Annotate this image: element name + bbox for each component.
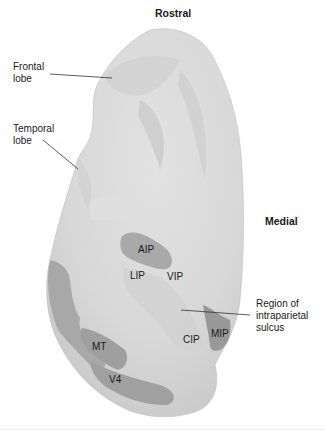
area-cip-label: CIP xyxy=(183,334,200,345)
area-lip-label: LIP xyxy=(130,270,145,281)
area-aip-label: AIP xyxy=(138,244,154,255)
area-mt-label: MT xyxy=(92,341,106,352)
area-mip-label: MIP xyxy=(211,328,229,339)
intraparietal-sulcus-label: Region of intraparietal sulcus xyxy=(256,298,308,334)
bottom-divider xyxy=(0,429,325,430)
area-vip-label: VIP xyxy=(167,271,183,282)
rostral-label: Rostral xyxy=(155,7,191,19)
frontal-lobe-label: Frontal lobe xyxy=(13,61,44,85)
area-v4-label: V4 xyxy=(109,374,121,385)
temporal-lobe-label: Temporal lobe xyxy=(13,123,54,147)
medial-label: Medial xyxy=(265,215,298,227)
